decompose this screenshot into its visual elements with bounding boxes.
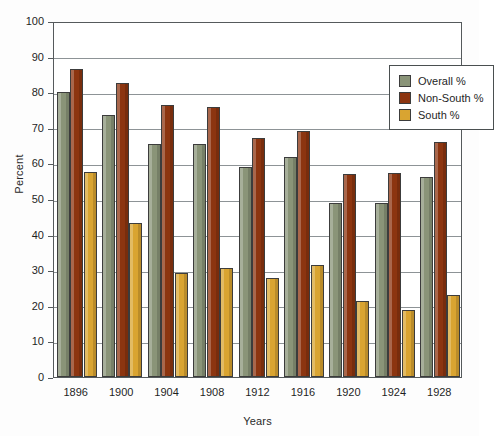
bar-shadow — [125, 84, 128, 376]
y-tick-label: 70 — [0, 122, 44, 134]
bar — [356, 301, 369, 377]
bar-highlight — [117, 84, 120, 376]
bar-shadow — [384, 204, 387, 376]
bar — [220, 268, 233, 377]
bar-highlight — [71, 70, 74, 376]
bar-highlight — [344, 175, 347, 376]
x-tick-label: 1924 — [371, 386, 417, 398]
legend-swatch-non-south — [399, 92, 411, 104]
x-tick-label: 1896 — [53, 386, 99, 398]
bar-highlight — [435, 143, 438, 376]
bar — [447, 295, 460, 377]
plot-area: Overall % Non-South % South % — [53, 22, 462, 378]
y-tick-label: 60 — [0, 157, 44, 169]
bar-highlight — [162, 106, 165, 376]
x-tick-label: 1916 — [280, 386, 326, 398]
bar-highlight — [103, 116, 106, 376]
y-tick-label: 80 — [0, 86, 44, 98]
x-tick-label: 1908 — [189, 386, 235, 398]
y-tick-label: 30 — [0, 264, 44, 276]
legend: Overall % Non-South % South % — [389, 65, 494, 130]
bar-shadow — [365, 302, 368, 376]
bar — [388, 173, 401, 377]
bar-shadow — [66, 93, 69, 376]
bar-highlight — [298, 132, 301, 376]
bar-highlight — [267, 279, 270, 376]
bar-shadow — [275, 279, 278, 376]
legend-swatch-overall — [399, 75, 411, 87]
bar-highlight — [221, 269, 224, 376]
legend-item-overall: Overall % — [399, 73, 485, 88]
bar-highlight — [208, 108, 211, 376]
bar-shadow — [248, 168, 251, 376]
y-tick-label: 100 — [0, 15, 44, 27]
bar-shadow — [184, 274, 187, 376]
bar-highlight — [312, 266, 315, 376]
bar-shadow — [411, 311, 414, 376]
legend-label-overall: Overall % — [418, 75, 466, 87]
bar — [420, 177, 433, 377]
bar-shadow — [293, 158, 296, 376]
bar-highlight — [376, 204, 379, 376]
bar — [252, 138, 265, 377]
bar-highlight — [448, 296, 451, 376]
y-tick-label: 0 — [0, 371, 44, 383]
bar-shadow — [229, 269, 232, 376]
bar-highlight — [58, 93, 61, 376]
legend-swatch-south — [399, 109, 411, 121]
bar — [239, 167, 252, 377]
bar-highlight — [85, 173, 88, 376]
x-tick-label: 1928 — [416, 386, 462, 398]
x-tick-label: 1904 — [144, 386, 190, 398]
bar-shadow — [429, 178, 432, 376]
bar-highlight — [421, 178, 424, 376]
bar-shadow — [111, 116, 114, 376]
bar — [148, 144, 161, 377]
bar — [84, 172, 97, 377]
bar-highlight — [240, 168, 243, 376]
bar-shadow — [338, 204, 341, 376]
bar-shadow — [79, 70, 82, 376]
bar-highlight — [403, 311, 406, 376]
bar — [311, 265, 324, 377]
bar-shadow — [157, 145, 160, 376]
bar — [116, 83, 129, 377]
bar — [193, 144, 206, 377]
bar — [57, 92, 70, 377]
bar-highlight — [149, 145, 152, 376]
bar-shadow — [306, 132, 309, 376]
bar-highlight — [130, 224, 133, 376]
gridline — [54, 58, 461, 59]
bar-highlight — [357, 302, 360, 376]
bar-shadow — [352, 175, 355, 376]
bar — [343, 174, 356, 377]
bar — [266, 278, 279, 377]
bar — [70, 69, 83, 377]
bar-shadow — [138, 224, 141, 376]
bar-shadow — [93, 173, 96, 376]
bar-shadow — [261, 139, 264, 376]
bar-shadow — [202, 145, 205, 376]
bar — [375, 203, 388, 377]
bar — [129, 223, 142, 377]
bar — [434, 142, 447, 377]
y-tick-label: 90 — [0, 51, 44, 63]
legend-item-non-south: Non-South % — [399, 90, 485, 105]
y-tick-label: 40 — [0, 229, 44, 241]
bar-highlight — [330, 204, 333, 376]
bar-highlight — [285, 158, 288, 376]
bar-shadow — [216, 108, 219, 376]
legend-label-non-south: Non-South % — [418, 92, 483, 104]
bar-shadow — [320, 266, 323, 376]
x-axis-title: Years — [53, 415, 462, 427]
bar-shadow — [397, 174, 400, 376]
y-tick-label: 10 — [0, 335, 44, 347]
bar-shadow — [456, 296, 459, 376]
y-tick-label: 50 — [0, 193, 44, 205]
bar — [102, 115, 115, 377]
bar-shadow — [443, 143, 446, 376]
bar-highlight — [176, 274, 179, 376]
bar — [402, 310, 415, 377]
x-tick-label: 1900 — [98, 386, 144, 398]
